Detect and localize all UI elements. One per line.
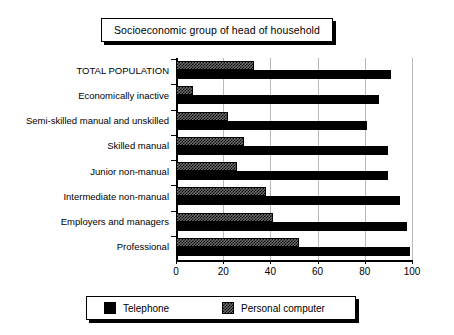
x-axis-tick-label: 80 <box>359 266 370 277</box>
y-axis-category-label: Professional <box>117 242 169 252</box>
bar-telephone <box>176 70 391 79</box>
bar-group: Professional <box>176 235 412 260</box>
x-axis-tick <box>412 260 413 264</box>
black-solid-swatch-icon <box>104 302 116 314</box>
y-axis-tick <box>171 110 176 111</box>
x-axis-tick <box>223 260 224 264</box>
y-axis-tick <box>171 84 176 85</box>
x-axis-tick-label: 20 <box>218 266 229 277</box>
bar-group: Skilled manual <box>176 134 412 159</box>
bar-personal-computer <box>176 187 266 196</box>
bar-telephone <box>176 95 379 104</box>
bar-personal-computer <box>176 213 273 222</box>
bar-telephone <box>176 121 367 130</box>
bar-telephone <box>176 222 407 231</box>
bar-group: Economically inactive <box>176 83 412 108</box>
x-axis-tick-label: 100 <box>404 266 421 277</box>
x-axis-tick <box>365 260 366 264</box>
chart-title: Socioeconomic group of head of household <box>114 24 320 36</box>
y-axis-tick <box>171 135 176 136</box>
bar-telephone <box>176 146 388 155</box>
bar-telephone <box>176 171 388 180</box>
y-axis-category-label: Semi-skilled manual and unskilled <box>26 116 169 126</box>
bar-group: Intermediate non-manual <box>176 184 412 209</box>
legend: Telephone Personal computer <box>86 296 356 320</box>
bar-personal-computer <box>176 238 299 247</box>
y-axis-tick <box>171 185 176 186</box>
y-axis-tick <box>171 160 176 161</box>
y-axis-category-label: Employers and managers <box>61 217 169 227</box>
gridline <box>412 58 413 260</box>
bar-personal-computer <box>176 86 193 95</box>
x-axis-tick <box>270 260 271 264</box>
plot-area: 020406080100 TOTAL POPULATIONEconomicall… <box>176 58 412 262</box>
y-axis-category-label: Junior non-manual <box>90 167 169 177</box>
bar-personal-computer <box>176 61 254 70</box>
bar-personal-computer <box>176 162 237 171</box>
chart-figure: Socioeconomic group of head of household… <box>0 0 454 335</box>
chart-title-box: Socioeconomic group of head of household <box>101 18 333 42</box>
y-axis-category-label: TOTAL POPULATION <box>76 66 169 76</box>
y-axis-tick <box>171 236 176 237</box>
x-axis-line <box>176 260 412 262</box>
x-axis-tick-label: 60 <box>312 266 323 277</box>
x-axis-tick <box>318 260 319 264</box>
y-axis-category-label: Economically inactive <box>78 91 169 101</box>
y-axis-category-label: Intermediate non-manual <box>63 192 169 202</box>
bar-telephone <box>176 247 410 256</box>
bar-group: TOTAL POPULATION <box>176 58 412 83</box>
legend-label-personal-computer: Personal computer <box>241 303 325 314</box>
bar-group: Semi-skilled manual and unskilled <box>176 109 412 134</box>
bar-personal-computer <box>176 112 228 121</box>
gray-hatched-swatch-icon <box>222 302 234 314</box>
bar-group: Junior non-manual <box>176 159 412 184</box>
y-axis-tick <box>171 211 176 212</box>
y-axis-tick <box>171 59 176 60</box>
legend-item-personal-computer: Personal computer <box>222 297 325 319</box>
x-axis-tick-label: 0 <box>173 266 179 277</box>
x-axis-tick <box>176 260 177 264</box>
legend-item-telephone: Telephone <box>104 297 169 319</box>
y-axis-category-label: Skilled manual <box>107 141 169 151</box>
x-axis-tick-label: 40 <box>265 266 276 277</box>
legend-label-telephone: Telephone <box>123 303 169 314</box>
bar-personal-computer <box>176 137 244 146</box>
bar-group: Employers and managers <box>176 210 412 235</box>
bar-telephone <box>176 196 400 205</box>
